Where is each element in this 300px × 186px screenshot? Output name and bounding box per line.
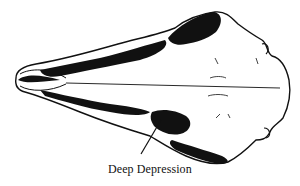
skull-illustration bbox=[0, 0, 300, 186]
annotation-label-deep-depression: Deep Depression bbox=[108, 162, 192, 177]
